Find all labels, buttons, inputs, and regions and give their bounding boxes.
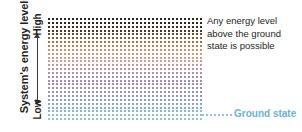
energy-level-dot — [84, 64, 86, 66]
energy-direction-arrow: High Low — [29, 17, 46, 121]
energy-level-dot — [112, 37, 114, 39]
energy-level-dot — [68, 107, 70, 109]
energy-level-dot — [100, 114, 102, 116]
energy-level-dot — [96, 114, 98, 116]
energy-level-dot — [156, 80, 158, 82]
energy-level-dot — [168, 37, 170, 39]
energy-level-dot — [124, 80, 126, 82]
energy-level-dot — [192, 60, 194, 62]
energy-level-dot — [164, 118, 166, 120]
energy-level-dot — [96, 110, 98, 112]
energy-level-dot — [200, 99, 202, 101]
energy-level-dot — [56, 22, 58, 24]
energy-level-dot — [76, 26, 78, 28]
energy-level-dot — [76, 57, 78, 59]
energy-level-dot — [192, 22, 194, 24]
energy-level-dot — [148, 87, 150, 89]
energy-level-dot — [124, 33, 126, 35]
energy-level-dot — [52, 114, 54, 116]
energy-level-dot — [152, 33, 154, 35]
energy-level-dot — [168, 95, 170, 97]
energy-level-dot — [196, 103, 198, 105]
energy-level-dot — [80, 41, 82, 43]
energy-level-dot — [176, 41, 178, 43]
energy-level-dot — [184, 30, 186, 32]
energy-level-dot — [56, 91, 58, 93]
energy-level-dot — [152, 118, 154, 120]
energy-level-dot — [124, 103, 126, 105]
energy-level-dot — [120, 95, 122, 97]
energy-level-dot — [120, 68, 122, 70]
energy-level-dot — [156, 41, 158, 43]
energy-level-dot — [72, 64, 74, 66]
energy-level-dot — [192, 64, 194, 66]
energy-level-dot — [160, 53, 162, 55]
energy-level-dot — [128, 118, 130, 120]
energy-level-dot — [196, 95, 198, 97]
energy-level-dot — [48, 118, 50, 120]
energy-level-dot — [76, 33, 78, 35]
energy-level-dot — [128, 22, 130, 24]
energy-level-dot — [144, 64, 146, 66]
energy-level-dot — [160, 110, 162, 112]
energy-level-dot — [188, 118, 190, 120]
energy-level-dot — [192, 76, 194, 78]
energy-level-dot — [180, 37, 182, 39]
energy-level-dot — [48, 87, 50, 89]
energy-level-dot — [68, 76, 70, 78]
energy-level-dot — [200, 91, 202, 93]
energy-level-dot — [68, 37, 70, 39]
energy-level-dot — [180, 57, 182, 59]
energy-level-dot — [160, 107, 162, 109]
energy-level-dot — [144, 18, 146, 20]
energy-level-dot — [152, 114, 154, 116]
energy-level-dot — [152, 45, 154, 47]
energy-level-dot — [88, 33, 90, 35]
energy-level-dot — [108, 87, 110, 89]
energy-level-dot — [104, 37, 106, 39]
energy-level-dot — [84, 68, 86, 70]
energy-level-dot — [144, 22, 146, 24]
energy-level-dot — [76, 76, 78, 78]
energy-level-dot — [96, 118, 98, 120]
energy-level-dot — [156, 57, 158, 59]
energy-level-dot — [64, 91, 66, 93]
energy-level-dot — [56, 103, 58, 105]
energy-level-dot — [64, 33, 66, 35]
energy-level-dot — [124, 18, 126, 20]
energy-level-dot — [124, 99, 126, 101]
energy-level-dot — [88, 80, 90, 82]
energy-level-dot — [144, 60, 146, 62]
energy-level-dot — [132, 107, 134, 109]
energy-level-dot — [148, 18, 150, 20]
energy-level-dot — [144, 107, 146, 109]
energy-level-dot — [196, 114, 198, 116]
energy-level-dot — [72, 114, 74, 116]
energy-level-dot — [136, 26, 138, 28]
energy-level-dot — [184, 60, 186, 62]
energy-level-dot — [80, 95, 82, 97]
energy-level-dot — [96, 103, 98, 105]
energy-level-dot — [120, 80, 122, 82]
energy-level-dot — [60, 114, 62, 116]
energy-level-dot — [184, 118, 186, 120]
energy-level-dot — [164, 64, 166, 66]
energy-level-dot — [108, 83, 110, 85]
energy-level-dot — [100, 60, 102, 62]
energy-level-dot — [192, 53, 194, 55]
energy-level-row — [48, 76, 202, 78]
energy-level-dot — [116, 114, 118, 116]
energy-level-dot — [152, 18, 154, 20]
energy-level-dot — [68, 53, 70, 55]
energy-level-dot — [104, 64, 106, 66]
energy-level-dot — [188, 33, 190, 35]
energy-level-dot — [100, 18, 102, 20]
energy-level-dot — [164, 72, 166, 74]
energy-level-dot — [184, 99, 186, 101]
energy-level-dot — [108, 99, 110, 101]
energy-level-dot — [72, 49, 74, 51]
energy-level-dot — [120, 114, 122, 116]
energy-level-dot — [136, 41, 138, 43]
energy-level-dot — [120, 22, 122, 24]
energy-level-dot — [164, 110, 166, 112]
